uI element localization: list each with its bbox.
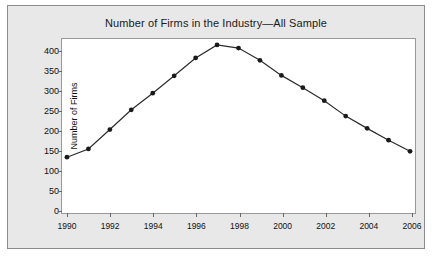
- series-line: [67, 45, 410, 157]
- data-point-marker: [172, 73, 177, 78]
- plot-area: Number of Firms 400350300250200150100500…: [61, 38, 416, 214]
- x-tick-label: 1998: [230, 221, 249, 231]
- x-tick-label: 1992: [101, 221, 120, 231]
- data-point-marker: [322, 98, 327, 103]
- data-point-marker: [107, 127, 112, 132]
- y-tick-label: 100: [25, 166, 59, 176]
- data-point-marker: [65, 155, 70, 160]
- x-tick-mark: [283, 213, 284, 217]
- data-point-marker: [86, 147, 91, 152]
- data-point-marker: [343, 114, 348, 119]
- y-tick-label: 150: [25, 146, 59, 156]
- x-tick-label: 1990: [58, 221, 77, 231]
- data-point-marker: [365, 126, 370, 131]
- chart-figure: Number of Firms in the Industry—All Samp…: [7, 5, 425, 249]
- x-tick-label: 2004: [359, 221, 378, 231]
- x-tick-mark: [110, 213, 111, 217]
- data-point-marker: [279, 73, 284, 78]
- x-tick-mark: [369, 213, 370, 217]
- x-tick-label: 2006: [403, 221, 422, 231]
- x-tick-label: 1994: [144, 221, 163, 231]
- chart-title: Number of Firms in the Industry—All Samp…: [8, 17, 424, 29]
- x-tick-label: 1996: [187, 221, 206, 231]
- data-point-marker: [408, 149, 413, 154]
- y-tick-label: 400: [25, 46, 59, 56]
- y-tick-label: 50: [25, 186, 59, 196]
- data-point-marker: [258, 58, 263, 63]
- y-tick-label: 250: [25, 106, 59, 116]
- x-tick-mark: [196, 213, 197, 217]
- line-series-all-sample: [62, 39, 415, 213]
- x-tick-mark: [153, 213, 154, 217]
- data-point-marker: [386, 138, 391, 143]
- data-point-marker: [236, 46, 241, 51]
- data-point-marker: [215, 43, 220, 48]
- x-tick-mark: [326, 213, 327, 217]
- x-tick-label: 2002: [316, 221, 335, 231]
- y-tick-label: 0: [25, 206, 59, 216]
- data-point-marker: [300, 85, 305, 90]
- y-tick-label: 350: [25, 66, 59, 76]
- x-tick-mark: [240, 213, 241, 217]
- data-point-marker: [150, 91, 155, 96]
- y-tick-label: 300: [25, 86, 59, 96]
- x-tick-mark: [67, 213, 68, 217]
- x-tick-mark: [412, 213, 413, 217]
- data-point-marker: [193, 56, 198, 61]
- x-tick-label: 2000: [273, 221, 292, 231]
- y-tick-label: 200: [25, 126, 59, 136]
- data-point-marker: [129, 107, 134, 112]
